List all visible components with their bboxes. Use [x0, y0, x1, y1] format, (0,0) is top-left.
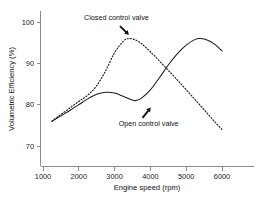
x-tick-label: 1000 [35, 172, 51, 181]
volumetric-efficiency-chart: 708090100 100020003000400050006000 Engin… [0, 0, 272, 210]
x-tick-label: 4000 [142, 172, 158, 181]
x-tick-label: 2000 [71, 172, 87, 181]
x-tick-label: 6000 [214, 172, 230, 181]
chart-figure: 708090100 100020003000400050006000 Engin… [0, 0, 272, 210]
y-tick-label: 70 [26, 142, 34, 151]
y-axis-title: Volumetric Efficiency (%) [7, 47, 16, 131]
x-tick-label: 5000 [178, 172, 194, 181]
y-tick-label: 100 [22, 18, 34, 27]
y-tick-label: 80 [26, 100, 34, 109]
x-tick-label: 3000 [106, 172, 122, 181]
annotation-label: Open control valve [119, 119, 179, 128]
y-tick-label: 90 [26, 59, 34, 68]
x-axis-title: Engine speed (rpm) [114, 183, 181, 192]
annotation-label: Closed control valve [84, 13, 149, 22]
